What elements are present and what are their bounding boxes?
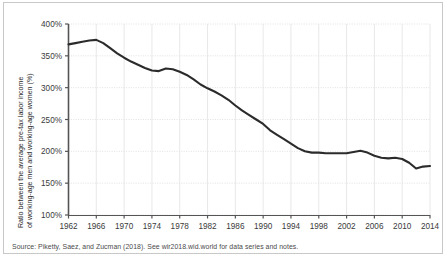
tick-label-x: 1970 bbox=[115, 222, 134, 231]
line-chart-svg: 100%150%200%250%300%350%400% 19621966197… bbox=[0, 0, 446, 266]
tick-label-y: 400% bbox=[41, 20, 62, 29]
y-axis-title-line1: Ratio between the average pre-tax labor … bbox=[17, 77, 25, 228]
tick-label-x: 2010 bbox=[393, 222, 412, 231]
y-axis-title: Ratio between the average pre-tax labor … bbox=[17, 73, 34, 228]
tick-label-x: 1998 bbox=[310, 222, 329, 231]
y-gridlines bbox=[69, 24, 431, 215]
plot-area-wrapper: 100%150%200%250%300%350%400% 19621966197… bbox=[0, 0, 446, 266]
tick-label-x: 1962 bbox=[59, 222, 78, 231]
y-axis-title-line2: of working-age men and working-age women… bbox=[26, 73, 34, 228]
tick-label-x: 1982 bbox=[198, 222, 217, 231]
tick-label-x: 1966 bbox=[87, 222, 106, 231]
tick-label-x: 2006 bbox=[365, 222, 384, 231]
tick-label-y: 200% bbox=[41, 147, 62, 156]
tick-label-x: 1974 bbox=[143, 222, 162, 231]
chart-figure: 100%150%200%250%300%350%400% 19621966197… bbox=[0, 0, 446, 266]
tick-label-x: 1994 bbox=[282, 222, 301, 231]
data-series-line bbox=[69, 40, 431, 169]
tick-label-y: 350% bbox=[41, 52, 62, 61]
tick-label-y: 250% bbox=[41, 116, 62, 125]
tick-label-y: 300% bbox=[41, 84, 62, 93]
x-tick-labels: 1962196619701974197819821986199019941998… bbox=[59, 222, 439, 231]
tick-label-x: 1986 bbox=[226, 222, 245, 231]
y-tick-labels: 100%150%200%250%300%350%400% bbox=[41, 20, 62, 220]
tick-label-y: 150% bbox=[41, 179, 62, 188]
tick-label-x: 2002 bbox=[337, 222, 356, 231]
tick-label-x: 1990 bbox=[254, 222, 273, 231]
tick-label-x: 1978 bbox=[171, 222, 190, 231]
tick-label-x: 2014 bbox=[421, 222, 440, 231]
source-note: Source: Piketty, Saez, and Zucman (2018)… bbox=[12, 243, 298, 250]
tick-label-y: 100% bbox=[41, 211, 62, 220]
